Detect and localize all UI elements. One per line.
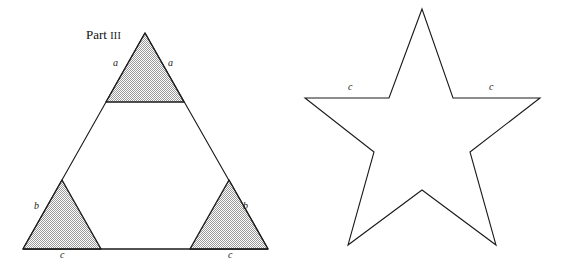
triangle-label-c-left: c — [60, 250, 64, 260]
figure-page: Part III a a b b c c c c — [0, 0, 568, 264]
shaded-triangle-bottom-right — [190, 180, 268, 249]
star-label-c-left: c — [348, 82, 352, 92]
part-caption: Part III — [86, 28, 121, 41]
part-caption-numeral: III — [110, 30, 121, 41]
triangle-label-b-left: b — [34, 201, 39, 211]
star-label-c-right: c — [489, 82, 493, 92]
part-caption-word: Part — [86, 27, 107, 42]
triangle-label-b-right: b — [243, 201, 248, 211]
triangle-label-a-right: a — [168, 58, 173, 68]
shaded-triangle-bottom-left — [23, 180, 101, 249]
star-outline — [305, 9, 540, 245]
triangle-label-a-left: a — [113, 58, 118, 68]
triangle-label-c-right: c — [228, 250, 232, 260]
